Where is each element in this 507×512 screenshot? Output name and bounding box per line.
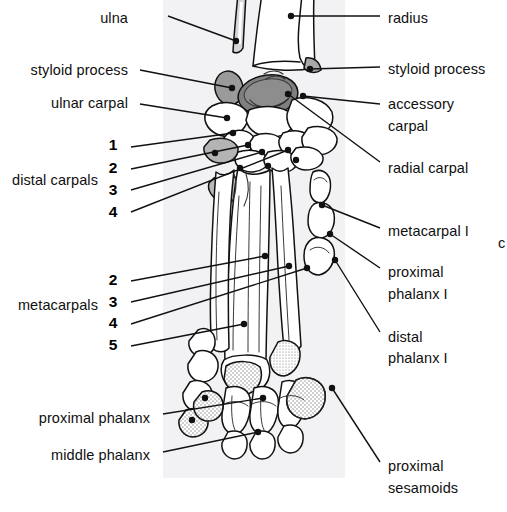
label-accessory-carpal: carpal <box>388 119 428 134</box>
label-ulnar-carpal: ulnar carpal <box>8 96 128 111</box>
label-distal: distal <box>388 330 422 345</box>
numeral-metacarpal-4: 4 <box>109 315 118 331</box>
label-styloid-process-right: styloid process <box>388 62 485 77</box>
edge-text-fragment: c <box>498 235 507 251</box>
numeral-metacarpal-5: 5 <box>109 337 118 353</box>
label-proximal-phalanx-1: phalanx I <box>388 287 448 302</box>
numeral-distal-carpal-3: 3 <box>109 182 118 198</box>
numeral-distal-carpal-4: 4 <box>109 204 118 220</box>
dot-proximal-phalanx-1 <box>327 231 333 237</box>
label-proximal-sesamoid: proximal <box>388 459 444 474</box>
digit5-middle-phalanx <box>278 425 303 453</box>
dot-extra-carpal-a <box>212 150 218 156</box>
dot-accessory-carpal <box>300 93 306 99</box>
label-middle-phalanx: middle phalanx <box>8 448 150 463</box>
dot-proximal-sesamoids <box>329 385 335 391</box>
dot-ulna <box>233 38 239 44</box>
label-accessory: accessory <box>388 97 454 112</box>
dot-radial-carpal <box>285 91 291 97</box>
dot-extra-carpal-d <box>293 157 299 163</box>
dot-proximal-phalanx <box>260 395 266 401</box>
dot-mc4 <box>304 265 310 271</box>
dot-dc2 <box>245 142 251 148</box>
dot-distal-phalanx-1 <box>332 257 338 263</box>
dot-dc1 <box>230 130 236 136</box>
label-distal-carpals: distal carpals <box>0 173 98 188</box>
label-radial-carpal: radial carpal <box>388 161 468 176</box>
label-distal-phalanx-1: phalanx I <box>388 351 448 366</box>
dot-styloid-left <box>229 85 235 91</box>
label-proximal: proximal <box>388 265 444 280</box>
dot-middle-phalanx <box>255 429 261 435</box>
metacarpal-1-bone <box>310 170 331 203</box>
dot-mc3 <box>286 263 292 269</box>
dot-extra-carpal-c <box>265 163 271 169</box>
dot-dc4 <box>285 147 291 153</box>
dot-extra-carpal-b <box>237 165 243 171</box>
label-metacarpals: metacarpals <box>0 298 98 313</box>
digit4-middle-phalanx <box>250 431 275 459</box>
label-metacarpal-1: metacarpal I <box>388 224 469 239</box>
dot-ulnar-carpal <box>224 115 230 121</box>
dot-metacarpal-1 <box>319 202 325 208</box>
dot-mc5 <box>241 321 247 327</box>
numeral-metacarpal-3: 3 <box>109 294 118 310</box>
label-proximal-phalanx: proximal phalanx <box>8 411 150 426</box>
anatomical-figure: ulna styloid process ulnar carpal distal… <box>0 0 507 512</box>
dot-radius <box>288 13 294 19</box>
label-radius: radius <box>388 11 428 26</box>
label-styloid-process-left: styloid process <box>8 63 128 78</box>
numeral-distal-carpal-1: 1 <box>109 137 118 153</box>
dot-dc3 <box>259 149 265 155</box>
dot-digit-b <box>189 417 195 423</box>
numeral-distal-carpal-2: 2 <box>109 160 118 176</box>
label-ulna: ulna <box>28 11 128 26</box>
dot-mc2 <box>262 253 268 259</box>
label-sesamoids: sesamoids <box>388 481 458 496</box>
numeral-metacarpal-2: 2 <box>109 272 118 288</box>
dot-styloid-right <box>307 66 313 72</box>
dot-digit-a <box>202 395 208 401</box>
